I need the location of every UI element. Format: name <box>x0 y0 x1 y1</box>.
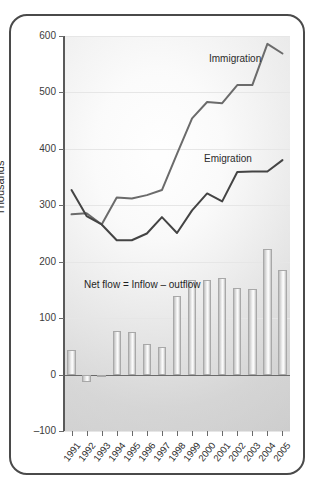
y-tick-600 <box>59 36 64 37</box>
y-tick-200 <box>59 262 64 263</box>
emigration-series-label: Emigration <box>204 153 252 164</box>
x-tick-2003 <box>252 431 253 436</box>
chart-canvas: –1000100200300400500600 Thousands 199119… <box>0 0 326 495</box>
line-series-group <box>64 36 290 431</box>
x-tick-2004 <box>267 431 268 436</box>
y-tick-400 <box>59 149 64 150</box>
y-tick-label-100: 100 <box>16 313 56 323</box>
y-tick-label-0: 0 <box>16 370 56 380</box>
y-axis-title: Thousands <box>0 95 6 215</box>
emigration-line <box>72 160 283 240</box>
x-tick-2001 <box>222 431 223 436</box>
x-tick-1993 <box>102 431 103 436</box>
x-tick-2000 <box>207 431 208 436</box>
x-tick-1997 <box>162 431 163 436</box>
y-tick-label-400: 400 <box>16 144 56 154</box>
y-tick-300 <box>59 205 64 206</box>
y-tick--100 <box>59 431 64 432</box>
y-tick-label-200: 200 <box>16 257 56 267</box>
x-tick-2002 <box>237 431 238 436</box>
immigration-series-label: Immigration <box>209 53 261 64</box>
y-tick-500 <box>59 92 64 93</box>
y-tick-label-600: 600 <box>16 31 56 41</box>
x-tick-1995 <box>132 431 133 436</box>
y-tick-100 <box>59 318 64 319</box>
x-tick-1998 <box>177 431 178 436</box>
x-tick-1996 <box>147 431 148 436</box>
y-tick-label-500: 500 <box>16 87 56 97</box>
y-axis-line <box>63 36 65 431</box>
y-tick-label--100: –100 <box>16 426 56 436</box>
x-tick-1994 <box>117 431 118 436</box>
x-tick-1999 <box>192 431 193 436</box>
y-tick-0 <box>59 375 64 376</box>
plot-area <box>64 36 290 431</box>
net-flow-annotation: Net flow = Inflow – outflow <box>84 279 200 290</box>
immigration-line <box>72 44 283 225</box>
x-tick-1992 <box>87 431 88 436</box>
y-tick-label-300: 300 <box>16 200 56 210</box>
x-tick-2005 <box>282 431 283 436</box>
x-tick-1991 <box>72 431 73 436</box>
